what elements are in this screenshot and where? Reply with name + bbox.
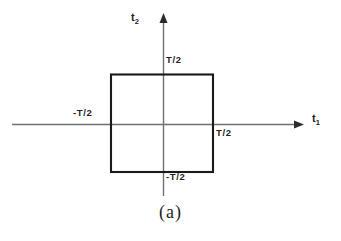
- horizontal-axis-arrow-icon: [294, 121, 304, 129]
- tick-label-right: T/2: [216, 128, 232, 138]
- vertical-axis-arrow-icon: [160, 13, 168, 23]
- tick-label-bottom: -T/2: [166, 172, 185, 182]
- square-region-boundary: [111, 75, 213, 173]
- horizontal-axis-subscript: 1: [316, 118, 320, 127]
- vertical-axis-label: t2: [131, 12, 139, 26]
- vertical-axis-subscript: 2: [135, 17, 139, 26]
- horizontal-axis-label: t1: [312, 113, 320, 127]
- figure-container: t2 t1 T/2 -T/2 T/2 -T/2 (a): [0, 0, 341, 241]
- figure-caption: (a): [0, 203, 341, 221]
- tick-label-top: T/2: [166, 55, 182, 65]
- tick-label-left: -T/2: [73, 108, 92, 118]
